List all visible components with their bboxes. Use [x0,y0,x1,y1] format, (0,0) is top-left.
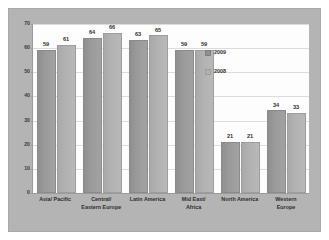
bar-value-label: 65 [155,28,161,34]
chart-legend: 20092008 [205,50,265,88]
x-axis-category-label-line: Europe [264,204,308,212]
x-axis-category-label-line: Western [264,196,308,204]
bar[interactable] [37,50,56,193]
y-axis-tick-label: 40 [24,94,30,99]
x-axis-category-label: Latin America [124,196,170,226]
bar-value-label: 64 [89,30,95,36]
bar-slot: 33 [287,24,306,193]
bar-slot: 66 [103,24,122,193]
bar-slot: 59 [37,24,56,193]
plot-area: 010203040506070 596164666365595921213433… [32,24,309,194]
bar-group: 6365 [125,24,171,193]
x-axis-category-labels: Asia/ PacificCentral/Eastern EuropeLatin… [32,196,309,226]
bar-group: 5961 [33,24,79,193]
bar[interactable] [287,113,306,193]
x-axis-category-label-line: Eastern Europe [79,204,123,212]
y-axis-tick-mark [31,193,33,194]
legend-item[interactable]: 2009 [205,50,265,56]
bar[interactable] [129,40,148,193]
legend-label: 2009 [214,50,226,55]
legend-label: 2008 [214,69,226,74]
x-axis-category-label: Central/Eastern Europe [78,196,124,226]
bar-value-label: 59 [201,42,207,48]
legend-item[interactable]: 2008 [205,69,265,75]
bar-slot: 63 [129,24,148,193]
x-axis-category-label-line: Africa [172,204,216,212]
x-axis-category-label-line: Central/ [79,196,123,204]
bar-value-label: 66 [109,25,115,31]
bar[interactable] [221,142,240,193]
x-axis-category-label: Asia/ Pacific [32,196,78,226]
bar-group: 6466 [79,24,125,193]
bar[interactable] [57,45,76,193]
bar-slot: 59 [175,24,194,193]
bar[interactable] [267,110,286,193]
x-axis-category-label: WesternEurope [263,196,309,226]
x-axis-category-label-line: North America [218,196,262,204]
bar-value-label: 33 [293,105,299,111]
bar[interactable] [175,50,194,193]
bar-slot: 61 [57,24,76,193]
x-axis-category-label: Mid East/Africa [171,196,217,226]
y-axis-tick-label: 20 [24,142,30,147]
bar[interactable] [83,38,102,193]
bar-value-label: 34 [273,103,279,109]
chart-figure: 010203040506070 596164666365595921213433… [8,8,321,232]
bar-value-label: 21 [247,134,253,140]
bar-slot: 64 [83,24,102,193]
x-axis-category-label-line: Mid East/ [172,196,216,204]
y-axis-tick-label: 30 [24,118,30,123]
bar-slot: 34 [267,24,286,193]
bar-groups: 596164666365595921213433 [33,24,309,193]
bar-slot: 65 [149,24,168,193]
legend-swatch-icon [205,69,211,75]
y-axis-tick-label: 60 [24,46,30,51]
bar[interactable] [241,142,260,193]
y-axis-tick-label: 50 [24,70,30,75]
bar-value-label: 61 [63,37,69,43]
bar-value-label: 59 [181,42,187,48]
bar[interactable] [103,33,122,193]
x-axis-category-label-line: Asia/ Pacific [33,196,77,204]
bar-value-label: 63 [135,32,141,38]
bar-value-label: 21 [227,134,233,140]
y-axis-tick-label: 0 [27,190,30,195]
legend-swatch-icon [205,50,211,56]
y-axis-tick-label: 10 [24,166,30,171]
y-axis-tick-label: 70 [24,21,30,26]
bar-group: 3433 [263,24,309,193]
bar-value-label: 59 [43,42,49,48]
x-axis-category-label: North America [217,196,263,226]
x-axis-category-label-line: Latin America [125,196,169,204]
bar[interactable] [149,35,168,193]
